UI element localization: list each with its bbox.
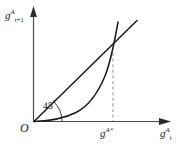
x-axis-tick-label-steady-state: gA*: [100, 128, 113, 139]
x-axis-arrowhead: [159, 118, 171, 125]
y-axis-arrowhead: [30, 6, 37, 17]
origin-label: O: [20, 122, 29, 134]
x-axis-label: gAt: [160, 128, 172, 139]
phase-diagram-figure: gAt+1 gAt O gA* 45°: [0, 0, 181, 148]
y-axis-label: gAt+1: [5, 10, 24, 21]
angle-label-45-degrees: 45°: [43, 101, 56, 111]
degree-symbol: °: [53, 98, 56, 106]
